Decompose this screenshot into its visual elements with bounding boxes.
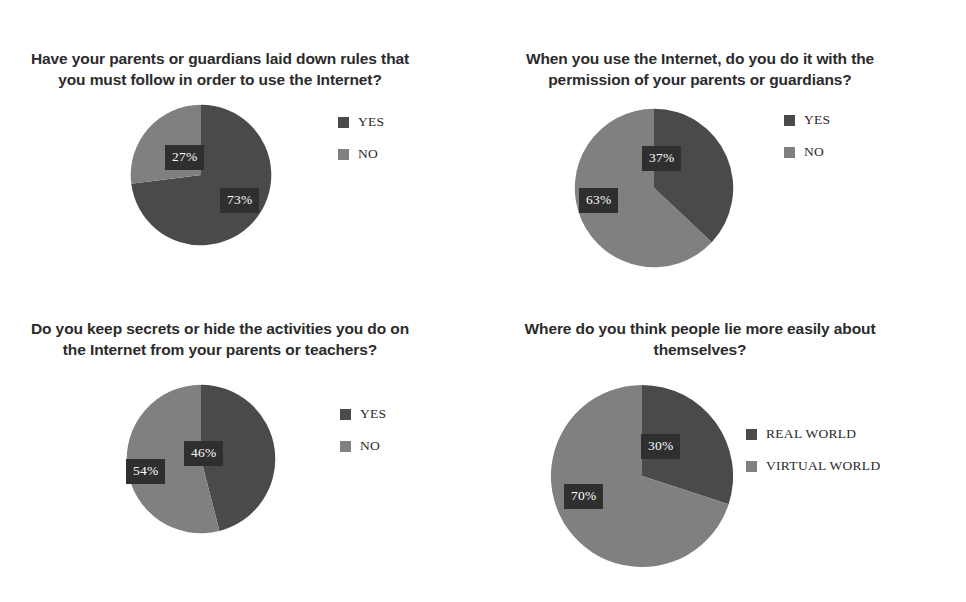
pie-chart-lying[interactable] xyxy=(550,384,734,568)
pie-label-no: 54% xyxy=(126,459,165,484)
legend-item-label: NO xyxy=(358,146,378,162)
plot-area-lying: 30% 70% REAL WORLD VIRTUAL WORLD xyxy=(496,384,962,570)
legend-item[interactable]: YES xyxy=(784,112,830,128)
legend-swatch-icon xyxy=(746,461,757,472)
legend-item-label: YES xyxy=(360,406,386,422)
pie-svg-lying xyxy=(550,384,734,568)
legend-item[interactable]: YES xyxy=(338,114,384,130)
legend-item[interactable]: YES xyxy=(340,406,386,422)
legend-item[interactable]: NO xyxy=(340,438,386,454)
legend-item[interactable]: VIRTUAL WORLD xyxy=(746,458,880,474)
pie-label-yes: 46% xyxy=(184,441,223,466)
legend-swatch-icon xyxy=(746,429,757,440)
legend-item-label: NO xyxy=(804,144,824,160)
legend-lying: REAL WORLD VIRTUAL WORLD xyxy=(746,426,880,490)
legend-swatch-icon xyxy=(784,115,795,126)
pie-label-real-world: 30% xyxy=(641,434,680,459)
legend-swatch-icon xyxy=(338,149,349,160)
legend-item-label: VIRTUAL WORLD xyxy=(766,458,880,474)
pie-label-yes: 37% xyxy=(642,146,681,171)
chart-title-lying: Where do you think people lie more easil… xyxy=(498,318,902,360)
legend-swatch-icon xyxy=(338,117,349,128)
legend-item[interactable]: REAL WORLD xyxy=(746,426,880,442)
legend-item-label: REAL WORLD xyxy=(766,426,856,442)
chart-panel-lying: Where do you think people lie more easil… xyxy=(496,318,962,570)
pie-label-no: 63% xyxy=(579,188,618,213)
pie-label-virtual-world: 70% xyxy=(564,484,603,509)
pie-svg-rules xyxy=(130,104,272,246)
chart-title-secrets: Do you keep secrets or hide the activiti… xyxy=(18,318,422,360)
legend-rules: YES NO xyxy=(338,114,384,178)
pie-chart-rules[interactable] xyxy=(130,104,272,246)
legend-item[interactable]: NO xyxy=(784,144,830,160)
legend-swatch-icon xyxy=(340,409,351,420)
pie-label-yes: 73% xyxy=(220,188,259,213)
chart-title-rules: Have your parents or guardians laid down… xyxy=(18,48,422,90)
legend-item-label: NO xyxy=(360,438,380,454)
survey-pie-charts-figure: { "figure": { "background_color": "#ffff… xyxy=(0,0,966,602)
chart-panel-secrets: Do you keep secrets or hide the activiti… xyxy=(14,318,480,548)
legend-item-label: YES xyxy=(804,112,830,128)
legend-swatch-icon xyxy=(784,147,795,158)
legend-item-label: YES xyxy=(358,114,384,130)
chart-title-permission: When you use the Internet, do you do it … xyxy=(498,48,902,90)
legend-permission: YES NO xyxy=(784,112,830,176)
chart-panel-permission: When you use the Internet, do you do it … xyxy=(496,48,962,272)
plot-area-secrets: 46% 54% YES NO xyxy=(14,380,480,548)
legend-item[interactable]: NO xyxy=(338,146,384,162)
legend-secrets: YES NO xyxy=(340,406,386,470)
plot-area-permission: 37% 63% YES NO xyxy=(496,104,962,272)
legend-swatch-icon xyxy=(340,441,351,452)
plot-area-rules: 27% 73% YES NO xyxy=(14,104,480,272)
chart-panel-rules: Have your parents or guardians laid down… xyxy=(14,48,480,272)
pie-label-no: 27% xyxy=(165,145,204,170)
